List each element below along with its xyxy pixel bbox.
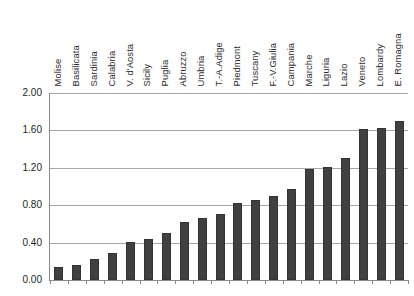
category-label: Sicily — [142, 0, 151, 86]
category-label: Lazio — [339, 0, 348, 86]
bar — [144, 239, 153, 280]
category-label: Sardinia — [88, 0, 97, 86]
category-label: Piedmont — [232, 0, 241, 86]
bar — [395, 121, 404, 280]
category-label: Veneto — [357, 0, 366, 86]
category-label: Marche — [303, 0, 312, 86]
bar — [269, 196, 278, 280]
y-axis-tick-label: 0.80 — [23, 200, 42, 210]
y-axis-tick-label: 0.00 — [23, 275, 42, 285]
category-label: Liguria — [321, 0, 330, 86]
bar — [323, 167, 332, 280]
bar — [90, 259, 99, 280]
y-axis-tick-label: 0.40 — [23, 238, 42, 248]
plot-area — [49, 93, 408, 280]
bar — [216, 214, 225, 280]
category-label: F.-V.Giulia — [267, 0, 276, 86]
bar — [233, 203, 242, 280]
category-label: V. d'Aosta — [124, 0, 133, 86]
y-axis-tick-label: 2.00 — [23, 88, 42, 98]
bar — [359, 129, 368, 280]
bar — [198, 218, 207, 280]
bar-chart: MoliseBasilicataSardiniaCalabriaV. d'Aos… — [0, 0, 414, 296]
category-label: Basilicata — [70, 0, 79, 86]
y-axis-tick-label: 1.20 — [23, 163, 42, 173]
category-label: T.-A.Adige — [214, 0, 223, 86]
category-label: Umbria — [196, 0, 205, 86]
bar — [377, 128, 386, 280]
category-label: Puglia — [160, 0, 169, 86]
bar — [54, 267, 63, 280]
bar — [72, 265, 81, 280]
bar-series — [50, 93, 408, 280]
x-axis-line — [49, 280, 408, 281]
category-label: Abruzzo — [178, 0, 187, 86]
category-labels: MoliseBasilicataSardiniaCalabriaV. d'Aos… — [49, 0, 407, 88]
category-label: Molise — [53, 0, 62, 86]
bar — [162, 233, 171, 280]
x-axis-tick — [408, 280, 409, 284]
bar — [287, 189, 296, 280]
y-axis-tick-label: 1.60 — [23, 125, 42, 135]
bar — [180, 222, 189, 280]
category-label: Lombardy — [375, 0, 384, 86]
bar — [251, 200, 260, 280]
category-label: Campania — [285, 0, 294, 86]
bar — [126, 242, 135, 280]
y-axis-tick-labels: 0.000.400.801.201.602.00 — [0, 88, 49, 284]
bar — [305, 169, 314, 280]
category-label: Tuscany — [249, 0, 258, 86]
category-label: Calabria — [106, 0, 115, 86]
bar — [341, 158, 350, 280]
bar — [108, 253, 117, 280]
category-label: E. Romagna — [393, 0, 402, 86]
